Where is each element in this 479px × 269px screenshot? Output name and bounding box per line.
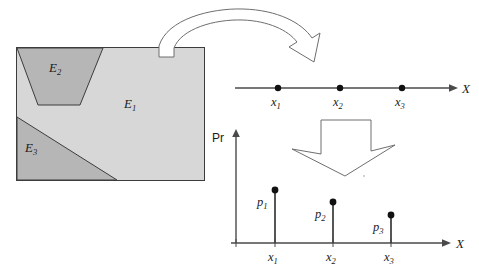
stem-1: p1 x1 — [256, 187, 278, 266]
number-line-point-2 — [337, 85, 343, 91]
plot-x-axis-label: X — [455, 236, 465, 251]
stem-3-tick-label: x3 — [383, 250, 394, 266]
stem-1-tick-label: x1 — [267, 250, 278, 266]
stem-3-value-label: p3 — [372, 220, 384, 236]
stem-1-value-label: p1 — [256, 195, 268, 211]
pr-axis-label: Pr — [212, 131, 224, 145]
number-line-point-3-label: x3 — [394, 95, 405, 111]
plot-x-axis-arrowhead — [442, 239, 451, 247]
number-line-axis-label: X — [461, 81, 471, 96]
number-line-point-1-label: x1 — [270, 95, 281, 111]
stem-1-marker — [272, 187, 279, 194]
pr-axis-arrowhead — [232, 129, 240, 137]
number-line-point-2-label: x2 — [332, 95, 344, 111]
number-line-point-1 — [275, 85, 281, 91]
stem-2-value-label: p2 — [314, 207, 326, 223]
stem-2: p2 x2 — [314, 199, 337, 266]
stem-3-marker — [388, 212, 395, 219]
stem-2-tick-label: x2 — [325, 250, 337, 266]
stem-2-marker — [330, 199, 337, 206]
number-line-point-3 — [399, 85, 405, 91]
figure-root: E1 E2 E3 x1 x2 — [0, 0, 479, 269]
down-block-arrow — [292, 120, 395, 176]
scan-speck — [363, 175, 365, 177]
stem-3: p3 x3 — [372, 212, 394, 266]
sample-space-rectangle: E1 E2 E3 — [17, 48, 205, 181]
x-number-line: x1 x2 x3 X — [235, 81, 471, 111]
figure-canvas: E1 E2 E3 x1 x2 — [0, 0, 479, 269]
number-line-arrowhead — [449, 84, 458, 92]
